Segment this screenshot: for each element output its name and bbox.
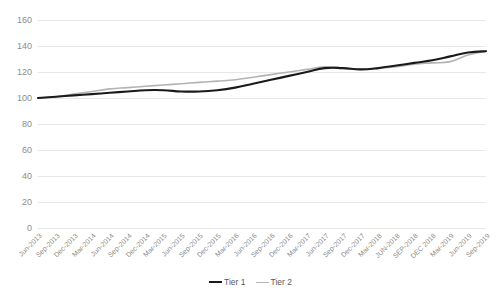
y-axis-tick-label: 140 — [2, 42, 32, 51]
y-axis-tick-label: 40 — [2, 172, 32, 181]
legend-label: Tier 2 — [271, 277, 292, 287]
y-axis-tick-label: 120 — [2, 68, 32, 77]
y-axis-tick-label: 80 — [2, 120, 32, 129]
line-chart: 020406080100120140160 Jun-2013Sep-2013De… — [0, 0, 501, 299]
y-axis-tick-label: 20 — [2, 198, 32, 207]
series-lines — [38, 51, 486, 98]
y-axis: 020406080100120140160 — [0, 0, 32, 299]
y-axis-tick-label: 60 — [2, 146, 32, 155]
legend-swatch-icon — [209, 281, 222, 283]
series-line-tier-1 — [38, 51, 486, 98]
chart-plot-area — [0, 0, 501, 299]
y-axis-tick-label: 100 — [2, 94, 32, 103]
legend-swatch-icon — [256, 282, 269, 283]
legend-item[interactable]: Tier 2 — [256, 276, 292, 287]
y-axis-tick-label: 160 — [2, 16, 32, 25]
y-axis-tick-label: 0 — [2, 224, 32, 233]
series-line-tier-2 — [38, 51, 486, 98]
chart-legend: Tier 1Tier 2 — [0, 276, 501, 287]
gridlines — [38, 20, 486, 228]
legend-label: Tier 1 — [224, 277, 245, 287]
legend-item[interactable]: Tier 1 — [209, 276, 245, 287]
